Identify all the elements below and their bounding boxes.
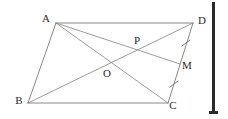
tick-MC xyxy=(170,81,178,87)
geometry-canvas: A B C D O P M xyxy=(0,0,228,119)
label-O: O xyxy=(103,67,111,79)
right-margin-bar xyxy=(212,2,215,114)
label-C: C xyxy=(169,99,176,111)
label-P: P xyxy=(134,34,140,46)
diagonal-AC xyxy=(56,23,168,103)
tick-MC-group xyxy=(170,81,178,87)
label-M: M xyxy=(182,59,192,71)
label-D: D xyxy=(198,14,206,26)
right-margin-bar-foot xyxy=(209,111,218,114)
label-B: B xyxy=(15,94,22,106)
diagonal-BD xyxy=(28,23,193,103)
label-A: A xyxy=(42,12,50,24)
cevian-AM xyxy=(56,23,180,64)
geometry-figure: A B C D O P M xyxy=(0,0,228,119)
